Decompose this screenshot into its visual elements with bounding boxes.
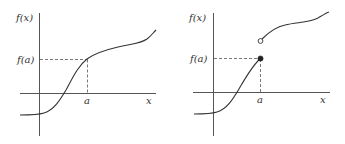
right-graph: f(x) f(a) a x (188, 12, 330, 136)
right-y-axis-label: f(x) (188, 12, 206, 23)
left-a-label: a (84, 95, 90, 106)
filled-point-icon (258, 56, 263, 61)
open-point-icon (258, 39, 263, 44)
right-a-label: a (257, 94, 263, 105)
right-curve-left-branch (194, 59, 260, 114)
left-fa-label: f(a) (16, 54, 35, 65)
right-curve-right-branch (262, 12, 329, 39)
right-x-axis-label: x (320, 94, 326, 105)
left-y-axis-label: f(x) (15, 12, 33, 23)
continuity-diagram: f(x) f(a) a x f(x) f(a) a x (0, 0, 345, 144)
right-fa-label: f(a) (189, 53, 208, 64)
left-graph: f(x) f(a) a x (15, 12, 156, 136)
left-x-axis-label: x (146, 95, 152, 106)
